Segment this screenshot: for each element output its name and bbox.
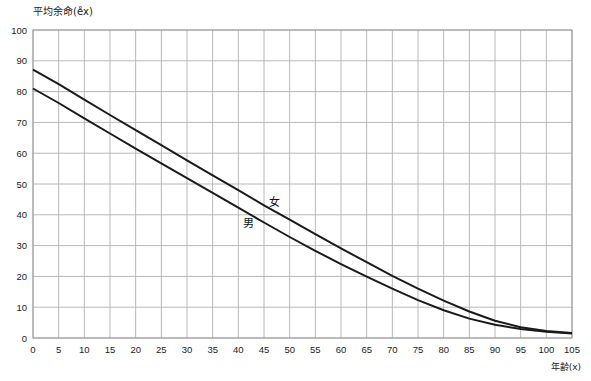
y-tick-label: 20 [16, 271, 27, 282]
life-expectancy-chart: 0510152025303540455055606570758085909510… [0, 0, 591, 381]
y-tick-label: 10 [16, 302, 27, 313]
y-tick-label: 80 [16, 86, 27, 97]
x-tick-label: 85 [464, 344, 475, 355]
y-tick-label: 0 [22, 333, 27, 344]
y-tick-label: 30 [16, 240, 27, 251]
x-tick-label: 40 [233, 344, 244, 355]
x-tick-label: 100 [538, 344, 554, 355]
x-tick-label: 15 [105, 344, 116, 355]
x-tick-label: 5 [56, 344, 61, 355]
x-tick-label: 45 [259, 344, 270, 355]
y-tick-label: 70 [16, 117, 27, 128]
x-tick-label: 65 [361, 344, 372, 355]
x-tick-label: 105 [564, 344, 580, 355]
series-line-male [33, 89, 572, 334]
y-tick-label: 90 [16, 55, 27, 66]
x-tick-label: 50 [284, 344, 295, 355]
x-tick-label: 10 [79, 344, 90, 355]
x-tick-label: 75 [413, 344, 424, 355]
x-tick-label: 30 [182, 344, 193, 355]
x-tick-label: 80 [438, 344, 449, 355]
grid [33, 30, 572, 338]
series-annotation: 女 [269, 195, 280, 209]
x-tick-label: 35 [207, 344, 218, 355]
x-tick-label: 70 [387, 344, 398, 355]
x-tick-label: 60 [336, 344, 347, 355]
y-tick-label: 100 [11, 25, 27, 36]
annotations: 女男 [243, 195, 280, 231]
series-lines [33, 70, 572, 334]
x-tick-label: 95 [515, 344, 526, 355]
series-line-female [33, 70, 572, 333]
x-tick-label: 20 [130, 344, 141, 355]
x-tick-label: 90 [490, 344, 501, 355]
y-tick-label: 50 [16, 179, 27, 190]
x-tick-label: 0 [30, 344, 35, 355]
y-tick-label: 40 [16, 209, 27, 220]
y-tick-label: 60 [16, 148, 27, 159]
x-tick-label: 25 [156, 344, 167, 355]
x-tick-label: 55 [310, 344, 321, 355]
series-annotation: 男 [243, 217, 254, 230]
